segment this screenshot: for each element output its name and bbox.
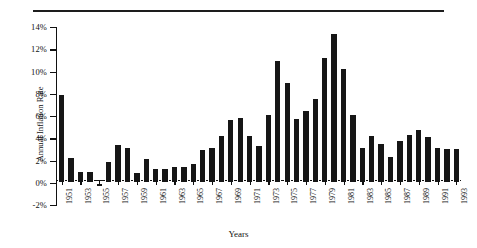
y-tick-label: 10% <box>31 67 47 77</box>
y-tick <box>50 27 57 28</box>
x-tick-label: 1967 <box>215 188 224 204</box>
x-axis-title: Years <box>0 229 477 239</box>
x-tick-label: 1961 <box>159 188 168 204</box>
x-tick <box>137 180 138 185</box>
y-tick <box>50 161 57 162</box>
x-tick-label: 1965 <box>196 188 205 204</box>
x-tick <box>231 180 232 185</box>
x-tick-label: 1993 <box>460 188 469 204</box>
y-tick-label: 12% <box>31 44 47 54</box>
x-tick <box>212 180 213 185</box>
y-tick-label: 6% <box>35 111 47 121</box>
x-tick-label: 1991 <box>441 188 450 204</box>
y-tick-label: -2% <box>33 200 47 210</box>
y-tick <box>50 94 57 95</box>
x-tick <box>268 180 269 185</box>
y-tick <box>50 138 57 139</box>
x-tick-label: 1955 <box>102 188 111 204</box>
x-tick-label: 1963 <box>178 188 187 204</box>
x-tick <box>362 180 363 185</box>
x-tick <box>306 180 307 185</box>
x-axis-ticks: 1951195319551957195919611963196519671969… <box>57 27 461 205</box>
x-tick <box>250 180 251 185</box>
x-tick-label: 1977 <box>309 188 318 204</box>
x-tick-label: 1981 <box>347 188 356 204</box>
x-tick <box>438 180 439 185</box>
y-tick-label: 0% <box>35 178 47 188</box>
x-tick-label: 1983 <box>366 188 375 204</box>
x-tick-label: 1975 <box>290 188 299 204</box>
x-tick <box>99 180 100 185</box>
x-tick-label: 1969 <box>234 188 243 204</box>
x-tick <box>344 180 345 185</box>
y-tick <box>50 72 57 73</box>
y-tick <box>50 205 57 206</box>
plot-area: 1951195319551957195919611963196519671969… <box>57 27 461 205</box>
x-tick-label: 1979 <box>328 188 337 204</box>
x-tick <box>193 180 194 185</box>
x-tick-label: 1985 <box>384 188 393 204</box>
x-tick <box>62 180 63 185</box>
x-tick-label: 1989 <box>422 188 431 204</box>
x-tick-label: 1973 <box>272 188 281 204</box>
x-tick <box>419 180 420 185</box>
x-tick <box>381 180 382 185</box>
x-tick-label: 1951 <box>65 188 74 204</box>
x-tick-label: 1959 <box>140 188 149 204</box>
x-tick <box>80 180 81 185</box>
y-tick-label: 4% <box>35 133 47 143</box>
y-tick <box>50 116 57 117</box>
y-tick-label: 2% <box>35 156 47 166</box>
x-tick <box>456 180 457 185</box>
x-tick-label: 1971 <box>253 188 262 204</box>
x-tick <box>156 180 157 185</box>
x-tick <box>118 180 119 185</box>
y-tick-label: 8% <box>35 89 47 99</box>
x-tick <box>325 180 326 185</box>
y-tick-label: 14% <box>31 22 47 32</box>
x-tick-label: 1957 <box>121 188 130 204</box>
y-tick <box>50 183 57 184</box>
x-tick <box>287 180 288 185</box>
x-tick <box>174 180 175 185</box>
x-tick-label: 1987 <box>403 188 412 204</box>
x-tick-label: 1953 <box>84 188 93 204</box>
y-tick <box>50 49 57 50</box>
top-horizontal-rule <box>33 10 444 12</box>
x-tick <box>400 180 401 185</box>
chart-page: Annual Inflation Rate Years 195119531955… <box>0 0 477 248</box>
